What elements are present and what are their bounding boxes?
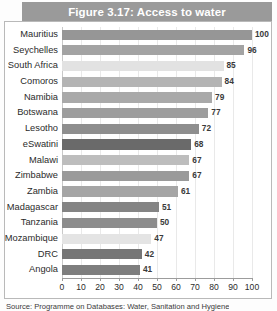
category-label-eswatini: eSwatini bbox=[23, 137, 58, 153]
bar-madagascar[interactable] bbox=[62, 202, 159, 212]
x-tick-label-80: 80 bbox=[209, 282, 219, 292]
value-label-mauritius: 100 bbox=[252, 27, 269, 43]
bar-mauritius[interactable] bbox=[62, 30, 252, 40]
bar-zimbabwe[interactable] bbox=[62, 171, 189, 181]
tick-mark-90 bbox=[233, 278, 234, 281]
tick-mark-50 bbox=[157, 278, 158, 281]
category-label-angola: Angola bbox=[29, 262, 58, 278]
bar-namibia[interactable] bbox=[62, 92, 212, 102]
tick-mark-70 bbox=[195, 278, 196, 281]
bar-tanzania[interactable] bbox=[62, 218, 157, 228]
tick-mark-0 bbox=[62, 278, 63, 281]
value-label-seychelles: 96 bbox=[244, 43, 256, 59]
bar-row: Mauritius100 bbox=[62, 27, 252, 43]
value-label-namibia: 79 bbox=[212, 90, 224, 106]
value-label-madagascar: 51 bbox=[159, 200, 171, 216]
value-label-mozambique: 47 bbox=[151, 231, 163, 247]
plot-area: Mauritius100Seychelles96South Africa85Co… bbox=[62, 27, 252, 278]
bar-mozambique[interactable] bbox=[62, 234, 151, 244]
category-label-mauritius: Mauritius bbox=[20, 27, 58, 43]
bar-row: Zimbabwe67 bbox=[62, 168, 252, 184]
x-tick-label-40: 40 bbox=[133, 282, 143, 292]
category-label-mozambique: Mozambique bbox=[5, 231, 58, 247]
bar-row: Malawi67 bbox=[62, 153, 252, 169]
bar-eswatini[interactable] bbox=[62, 139, 191, 149]
value-label-lesotho: 72 bbox=[199, 121, 211, 137]
bar-row: Mozambique47 bbox=[62, 231, 252, 247]
x-tick-label-10: 10 bbox=[76, 282, 86, 292]
bar-angola[interactable] bbox=[62, 265, 140, 275]
bar-south-africa[interactable] bbox=[62, 61, 224, 71]
bar-seychelles[interactable] bbox=[62, 45, 244, 55]
tick-mark-80 bbox=[214, 278, 215, 281]
category-label-south-africa: South Africa bbox=[8, 58, 58, 74]
value-label-zambia: 61 bbox=[178, 184, 190, 200]
value-label-tanzania: 50 bbox=[157, 215, 169, 231]
bar-row: Angola41 bbox=[62, 262, 252, 278]
x-tick-label-0: 0 bbox=[60, 282, 65, 292]
category-label-zambia: Zambia bbox=[27, 184, 58, 200]
bar-row: DRC42 bbox=[62, 247, 252, 263]
x-tick-label-30: 30 bbox=[114, 282, 124, 292]
category-label-comoros: Comoros bbox=[20, 74, 58, 90]
bar-comoros[interactable] bbox=[62, 77, 222, 87]
value-label-south-africa: 85 bbox=[224, 58, 236, 74]
x-tick-label-50: 50 bbox=[152, 282, 162, 292]
category-label-drc: DRC bbox=[38, 247, 58, 263]
bar-row: Madagascar51 bbox=[62, 200, 252, 216]
tick-mark-60 bbox=[176, 278, 177, 281]
x-axis-ticks: 0102030405060708090100 bbox=[62, 278, 252, 298]
value-label-angola: 41 bbox=[140, 262, 152, 278]
bar-row: Comoros84 bbox=[62, 74, 252, 90]
bar-rows: Mauritius100Seychelles96South Africa85Co… bbox=[62, 27, 252, 278]
page-title: Figure 3.17: Access to water bbox=[68, 6, 226, 18]
bar-row: Botswana77 bbox=[62, 105, 252, 121]
category-label-zimbabwe: Zimbabwe bbox=[15, 168, 58, 184]
bar-row: Seychelles96 bbox=[62, 43, 252, 59]
bar-row: eSwatini68 bbox=[62, 137, 252, 153]
category-label-madagascar: Madagascar bbox=[7, 200, 58, 216]
bar-lesotho[interactable] bbox=[62, 124, 199, 134]
tick-mark-10 bbox=[81, 278, 82, 281]
category-label-seychelles: Seychelles bbox=[13, 43, 58, 59]
tick-mark-40 bbox=[138, 278, 139, 281]
x-tick-label-20: 20 bbox=[95, 282, 105, 292]
tick-mark-30 bbox=[119, 278, 120, 281]
value-label-drc: 42 bbox=[142, 247, 154, 263]
figure-container: Figure 3.17: Access to water Mauritius10… bbox=[0, 0, 277, 311]
category-label-namibia: Namibia bbox=[24, 90, 58, 106]
bar-row: South Africa85 bbox=[62, 58, 252, 74]
value-label-botswana: 77 bbox=[208, 105, 220, 121]
value-label-comoros: 84 bbox=[222, 74, 234, 90]
tick-mark-20 bbox=[100, 278, 101, 281]
bar-row: Namibia79 bbox=[62, 90, 252, 106]
category-label-botswana: Botswana bbox=[17, 105, 58, 121]
value-label-malawi: 67 bbox=[189, 153, 201, 169]
value-label-zimbabwe: 67 bbox=[189, 168, 201, 184]
bar-row: Tanzania50 bbox=[62, 215, 252, 231]
bar-zambia[interactable] bbox=[62, 186, 178, 196]
bar-malawi[interactable] bbox=[62, 155, 189, 165]
figure-title-band: Figure 3.17: Access to water bbox=[22, 2, 272, 21]
category-label-malawi: Malawi bbox=[29, 153, 58, 169]
bar-drc[interactable] bbox=[62, 249, 142, 259]
tick-mark-100 bbox=[252, 278, 253, 281]
x-tick-label-70: 70 bbox=[190, 282, 200, 292]
value-label-eswatini: 68 bbox=[191, 137, 203, 153]
source-caption: Source: Programme on Databases: Water, S… bbox=[6, 302, 229, 311]
chart-frame: Mauritius100Seychelles96South Africa85Co… bbox=[4, 21, 272, 299]
category-label-tanzania: Tanzania bbox=[21, 215, 58, 231]
category-label-lesotho: Lesotho bbox=[25, 121, 58, 137]
x-tick-label-60: 60 bbox=[171, 282, 181, 292]
bar-row: Lesotho72 bbox=[62, 121, 252, 137]
bar-row: Zambia61 bbox=[62, 184, 252, 200]
bar-botswana[interactable] bbox=[62, 108, 208, 118]
x-tick-label-100: 100 bbox=[245, 282, 259, 292]
gridline-100 bbox=[252, 27, 253, 278]
x-tick-label-90: 90 bbox=[228, 282, 238, 292]
